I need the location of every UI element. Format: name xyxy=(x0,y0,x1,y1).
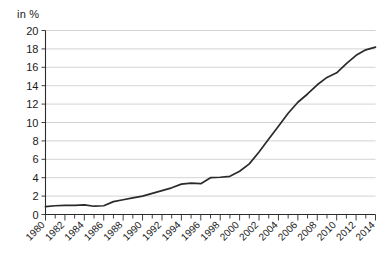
x-axis-tick-label: 2014 xyxy=(353,219,377,243)
y-axis-tick-label: 16 xyxy=(26,61,38,73)
x-axis-tick-label: 2004 xyxy=(256,219,280,243)
x-axis-tick-label: 2010 xyxy=(315,219,339,243)
y-axis-tick-label: 14 xyxy=(26,80,38,92)
line-chart: in % 02468101214161820 19801982198419861… xyxy=(0,0,389,263)
x-axis-tick-label: 1982 xyxy=(43,219,67,243)
y-axis-tick-label: 8 xyxy=(32,135,38,147)
x-axis-tick-label: 1996 xyxy=(179,219,203,243)
y-axis-tick-label: 20 xyxy=(26,25,38,37)
x-axis-tick-label: 1994 xyxy=(159,219,183,243)
x-axis-labels-group: 1980198219841986198819901992199419961998… xyxy=(23,219,377,243)
y-axis-tick-label: 2 xyxy=(32,190,38,202)
x-axis-tick-label: 2000 xyxy=(218,219,242,243)
y-axis-tick-label: 18 xyxy=(26,43,38,55)
y-axis-tick-label: 0 xyxy=(32,209,38,221)
x-axis-tick-label: 1988 xyxy=(101,219,125,243)
y-axis-tick-label: 10 xyxy=(26,117,38,129)
data-series-line xyxy=(46,47,376,207)
x-axis-tick-label: 1992 xyxy=(140,219,164,243)
y-axis-tick-label: 12 xyxy=(26,98,38,110)
x-axis-tick-label: 2012 xyxy=(334,219,358,243)
x-axis-tick-label: 2002 xyxy=(237,219,261,243)
x-axis-tick-label: 1986 xyxy=(82,219,106,243)
gridlines-group xyxy=(46,31,376,197)
x-axis-tick-label: 1990 xyxy=(120,219,144,243)
x-axis-ticks-group xyxy=(46,215,376,221)
y-axis-tick-label: 4 xyxy=(32,172,38,184)
x-axis-tick-label: 1984 xyxy=(62,219,86,243)
y-axis-tick-label: 6 xyxy=(32,153,38,165)
y-axis-ticks-group: 02468101214161820 xyxy=(26,25,45,221)
chart-plot-area: 02468101214161820 1980198219841986198819… xyxy=(0,0,389,263)
x-axis-tick-label: 1998 xyxy=(198,219,222,243)
x-axis-tick-label: 1980 xyxy=(23,219,47,243)
x-axis-tick-label: 2008 xyxy=(295,219,319,243)
x-axis-tick-label: 2006 xyxy=(276,219,300,243)
